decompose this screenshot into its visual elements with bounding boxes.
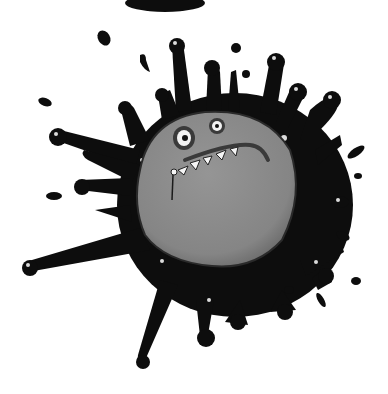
right-eye bbox=[209, 118, 225, 134]
top-cropped-blob bbox=[125, 0, 205, 12]
ink-splat-monster-drawing bbox=[0, 0, 388, 394]
left-eye bbox=[173, 126, 195, 150]
monster-face bbox=[137, 112, 296, 267]
